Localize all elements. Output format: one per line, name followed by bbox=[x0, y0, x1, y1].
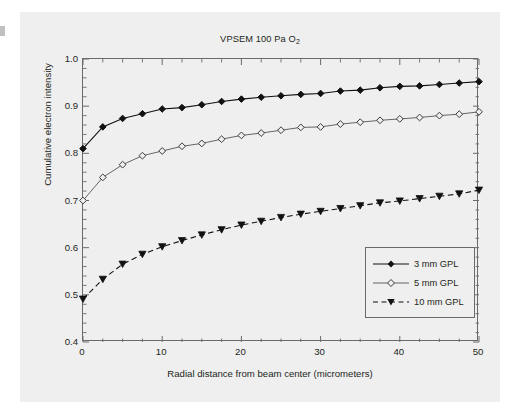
chart-title-subscript: 2 bbox=[296, 38, 300, 45]
x-axis-tick-labels: 01020304050 bbox=[82, 346, 478, 362]
chart-legend: 3 mm GPL5 mm GPL10 mm GPL bbox=[365, 247, 475, 318]
legend-marker-sample bbox=[372, 295, 410, 309]
page-margin-artifact bbox=[0, 26, 5, 36]
data-marker-open-diamond bbox=[416, 114, 423, 121]
figure-page: VPSEM 100 Pa O2 1.00.90.80.70.60.50.4 01… bbox=[0, 0, 511, 415]
data-marker-filled-triangle bbox=[456, 191, 463, 197]
data-marker-filled-diamond bbox=[199, 101, 206, 108]
legend-marker-sample bbox=[372, 276, 410, 290]
data-marker-filled-diamond bbox=[436, 81, 443, 88]
chart-title: VPSEM 100 Pa O2 bbox=[20, 34, 500, 44]
y-tick-label: 0.5 bbox=[50, 288, 78, 299]
legend-item-label: 5 mm GPL bbox=[414, 278, 458, 288]
x-axis-title: Radial distance from beam center (microm… bbox=[50, 368, 490, 379]
data-marker-filled-diamond bbox=[298, 91, 305, 98]
data-marker-filled-diamond bbox=[159, 106, 166, 113]
data-marker-open-diamond bbox=[238, 132, 245, 139]
y-tick-label: 0.7 bbox=[50, 194, 78, 205]
data-marker-filled-diamond bbox=[317, 90, 324, 97]
data-marker-open-diamond bbox=[456, 111, 463, 118]
data-marker-open-diamond bbox=[337, 121, 344, 128]
data-marker-open-diamond bbox=[396, 116, 403, 123]
data-marker-filled-triangle bbox=[159, 244, 166, 250]
data-marker-filled-diamond bbox=[456, 80, 463, 87]
data-marker-filled-diamond bbox=[179, 104, 186, 111]
data-marker-open-diamond bbox=[476, 108, 483, 115]
data-marker-open-diamond bbox=[436, 112, 443, 119]
data-marker-open-diamond bbox=[278, 127, 285, 134]
data-marker-open-diamond bbox=[159, 148, 166, 155]
data-marker-filled-triangle bbox=[79, 296, 86, 302]
y-tick-label: 0.9 bbox=[50, 100, 78, 111]
data-marker-filled-triangle bbox=[99, 276, 106, 282]
data-marker-open-diamond bbox=[258, 130, 265, 137]
data-marker-filled-diamond bbox=[377, 84, 384, 91]
legend-item-label: 3 mm GPL bbox=[414, 259, 458, 269]
x-tick-label: 0 bbox=[65, 346, 99, 357]
y-tick-label: 0.8 bbox=[50, 147, 78, 158]
data-marker-filled-triangle bbox=[139, 251, 146, 257]
x-tick-label: 50 bbox=[461, 346, 495, 357]
x-tick-label: 20 bbox=[223, 346, 257, 357]
data-marker-filled-diamond bbox=[476, 78, 483, 85]
legend-item-1: 3 mm GPL bbox=[366, 254, 474, 273]
data-marker-filled-diamond bbox=[357, 87, 364, 94]
data-marker-filled-diamond bbox=[278, 92, 285, 99]
data-marker-open-diamond bbox=[377, 117, 384, 124]
y-tick-label: 0.4 bbox=[50, 336, 78, 347]
legend-marker-sample bbox=[372, 257, 410, 271]
x-tick-label: 10 bbox=[144, 346, 178, 357]
data-marker-open-diamond bbox=[198, 140, 205, 147]
x-tick-label: 30 bbox=[303, 346, 337, 357]
data-marker-open-diamond bbox=[218, 136, 225, 143]
legend-item-3: 10 mm GPL bbox=[366, 292, 474, 311]
chart-title-text: VPSEM 100 Pa O bbox=[220, 34, 296, 44]
data-marker-open-diamond bbox=[317, 124, 324, 131]
y-tick-label: 1.0 bbox=[50, 53, 78, 64]
legend-item-label: 10 mm GPL bbox=[414, 297, 464, 307]
data-marker-open-diamond bbox=[139, 152, 146, 159]
data-marker-filled-triangle bbox=[258, 218, 265, 224]
y-tick-label: 0.6 bbox=[50, 241, 78, 252]
data-marker-filled-diamond bbox=[397, 83, 404, 90]
data-marker-filled-diamond bbox=[119, 115, 126, 122]
y-axis-title: Cumulative electron intensity bbox=[42, 30, 53, 220]
data-marker-open-diamond bbox=[297, 124, 304, 131]
x-tick-label: 40 bbox=[382, 346, 416, 357]
data-marker-filled-diamond bbox=[416, 83, 423, 90]
data-marker-filled-diamond bbox=[337, 88, 344, 95]
chart-figure-panel: VPSEM 100 Pa O2 1.00.90.80.70.60.50.4 01… bbox=[20, 12, 500, 402]
data-marker-open-diamond bbox=[119, 161, 126, 168]
data-marker-open-diamond bbox=[179, 143, 186, 150]
data-marker-filled-diamond bbox=[238, 96, 245, 103]
data-marker-filled-triangle bbox=[178, 238, 185, 244]
data-marker-filled-diamond bbox=[139, 110, 146, 117]
data-marker-open-diamond bbox=[357, 119, 364, 126]
data-marker-filled-diamond bbox=[218, 98, 225, 105]
legend-item-2: 5 mm GPL bbox=[366, 273, 474, 292]
data-marker-filled-diamond bbox=[258, 94, 265, 101]
